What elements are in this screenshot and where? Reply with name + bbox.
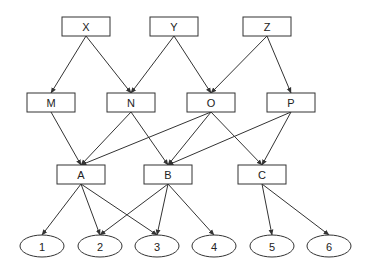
node-M: M <box>27 93 75 112</box>
edge-A-to-2 <box>81 184 100 235</box>
edge-Y-to-N <box>131 36 174 93</box>
node-label: A <box>77 169 85 181</box>
node-label: O <box>207 97 216 109</box>
node-label: B <box>164 169 171 181</box>
node-N: N <box>107 93 155 112</box>
node-label: 3 <box>154 241 160 253</box>
edge-A-to-1 <box>42 184 81 235</box>
edge-O-to-B <box>168 112 211 165</box>
node-label: P <box>287 97 294 109</box>
node-A: A <box>57 165 105 184</box>
edge-P-to-C <box>262 112 291 165</box>
node-label: 6 <box>326 241 332 253</box>
node-label: X <box>82 21 90 33</box>
node-B: B <box>144 165 192 184</box>
node-C: C <box>238 165 286 184</box>
edge-B-to-2 <box>100 184 168 235</box>
edge-X-to-M <box>51 36 86 93</box>
node-2: 2 <box>78 235 122 257</box>
edge-O-to-A <box>81 112 211 165</box>
edge-C-to-5 <box>262 184 272 235</box>
node-label: 1 <box>39 241 45 253</box>
node-X: X <box>62 17 110 36</box>
node-label: Z <box>264 21 271 33</box>
dependency-diagram: XYZMNOPABC123456 <box>0 0 369 270</box>
edge-Y-to-O <box>174 36 211 93</box>
edge-A-to-3 <box>81 184 157 235</box>
edge-X-to-N <box>86 36 131 93</box>
node-5: 5 <box>250 235 294 257</box>
edge-Z-to-O <box>211 36 267 93</box>
node-label: 2 <box>97 241 103 253</box>
node-label: 4 <box>211 241 217 253</box>
node-4: 4 <box>192 235 236 257</box>
edge-N-to-A <box>81 112 131 165</box>
node-label: M <box>46 97 55 109</box>
node-Z: Z <box>243 17 291 36</box>
edge-B-to-4 <box>168 184 214 235</box>
edge-N-to-B <box>131 112 168 165</box>
edge-O-to-C <box>211 112 262 165</box>
node-label: N <box>127 97 135 109</box>
edge-P-to-B <box>168 112 291 165</box>
edge-C-to-6 <box>262 184 329 235</box>
node-P: P <box>267 93 315 112</box>
node-6: 6 <box>307 235 351 257</box>
edge-M-to-A <box>51 112 81 165</box>
edge-B-to-3 <box>157 184 168 235</box>
node-3: 3 <box>135 235 179 257</box>
node-label: Y <box>170 21 178 33</box>
node-1: 1 <box>20 235 64 257</box>
node-label: 5 <box>269 241 275 253</box>
edges-layer <box>42 36 329 235</box>
node-Y: Y <box>150 17 198 36</box>
edge-Z-to-P <box>267 36 291 93</box>
node-O: O <box>187 93 235 112</box>
node-label: C <box>258 169 266 181</box>
